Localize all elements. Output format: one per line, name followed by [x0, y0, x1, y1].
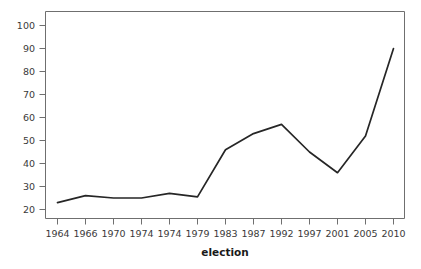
x-tick-label: 2010 [381, 228, 405, 239]
chart-container: 100 90 80 70 60 50 40 30 20 [0, 0, 421, 269]
x-tick-label: 1979 [185, 228, 209, 239]
x-tick-label: 1974 [129, 228, 153, 239]
line-chart: 100 90 80 70 60 50 40 30 20 [0, 0, 421, 269]
y-tick-label: 30 [23, 181, 35, 192]
x-tick-label: 1992 [269, 228, 293, 239]
y-tick-label: 20 [23, 204, 35, 215]
plot-frame [46, 12, 405, 219]
y-tick-label: 100 [17, 20, 35, 31]
y-tick-label: 40 [23, 158, 35, 169]
x-tick-label: 1974 [157, 228, 181, 239]
y-tick-label: 90 [23, 43, 35, 54]
x-axis-tick-labels: 1964 1966 1970 1974 1974 1979 1983 1987 … [45, 228, 405, 239]
y-tick-label: 70 [23, 89, 35, 100]
x-tick-label: 1983 [213, 228, 237, 239]
x-tick-label: 1987 [241, 228, 265, 239]
data-line-series [58, 49, 394, 203]
y-axis-ticks [40, 26, 46, 210]
x-tick-label: 1997 [297, 228, 321, 239]
x-tick-label: 1964 [45, 228, 69, 239]
x-tick-label: 1966 [73, 228, 97, 239]
y-axis-tick-labels: 100 90 80 70 60 50 40 30 20 [17, 20, 35, 215]
y-tick-label: 60 [23, 112, 35, 123]
y-tick-label: 50 [23, 135, 35, 146]
y-tick-label: 80 [23, 66, 35, 77]
x-tick-label: 2001 [325, 228, 349, 239]
x-axis-title: election [201, 246, 248, 258]
x-tick-label: 1970 [101, 228, 125, 239]
x-tick-label: 2005 [353, 228, 377, 239]
x-axis-ticks [58, 219, 394, 225]
